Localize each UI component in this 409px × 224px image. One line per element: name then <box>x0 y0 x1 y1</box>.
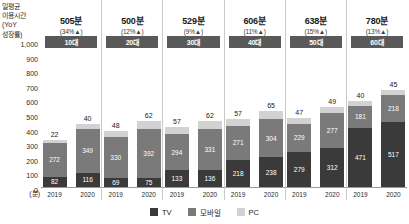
bar-top-label: 40 <box>348 92 372 99</box>
x-axis: 20192020 <box>163 187 223 200</box>
bar-group: 4018147145218517 <box>347 48 407 187</box>
stacked-bar[interactable]: 40181471 <box>348 101 372 188</box>
y-axis-tick: 700 <box>0 84 38 91</box>
legend-item-pc[interactable]: PC <box>237 208 259 217</box>
kpi-growth: (13%▲) <box>366 28 389 35</box>
stacked-bar[interactable]: 49277312 <box>320 107 344 187</box>
age-group: 500분(12%▲)20대4833069623927520192020 <box>102 0 163 200</box>
segment-tv: 75 <box>137 178 161 187</box>
group-kpi: 500분(12%▲) <box>102 0 162 36</box>
legend-item-mobile[interactable]: 모바일 <box>188 207 221 218</box>
x-axis-tick: 2019 <box>43 191 67 198</box>
stacked-bar[interactable]: 65304238 <box>259 111 283 187</box>
legend-swatch-icon <box>237 208 245 216</box>
axis-title-line-1: 일평균 <box>2 2 42 11</box>
stacked-bar[interactable]: 57294133 <box>165 127 189 188</box>
x-axis-tick: 2020 <box>381 191 405 198</box>
segment-mobile: 349 <box>76 129 100 173</box>
bar-top-label: 49 <box>320 98 344 105</box>
age-group: 606분(11%▲)40대572712186530423820192020 <box>225 0 286 200</box>
axis-title-line-3: (YoY <box>2 20 42 29</box>
age-group-label: 40대 <box>229 36 281 48</box>
segment-tv: 471 <box>348 128 372 187</box>
bar-top-label: 57 <box>226 110 250 117</box>
segment-tv: 218 <box>226 160 250 187</box>
stacked-bar[interactable]: 47229279 <box>287 118 311 187</box>
segment-pc <box>226 119 250 126</box>
stacked-bar[interactable]: 40349116 <box>76 124 100 187</box>
age-group-label: 20대 <box>106 36 158 48</box>
segment-mobile: 272 <box>43 143 67 177</box>
kpi-growth: (34%▲) <box>60 28 83 35</box>
kpi-growth: (12%▲) <box>121 28 144 35</box>
x-axis-tick: 2020 <box>259 191 283 198</box>
bar-top-label: 48 <box>104 122 128 129</box>
segment-tv: 238 <box>259 157 283 187</box>
x-axis-tick: 2020 <box>198 191 222 198</box>
stacked-bar[interactable]: 62331136 <box>198 121 222 187</box>
kpi-total: 606분 <box>243 14 265 27</box>
age-group-label: 10대 <box>45 36 97 48</box>
stacked-bar[interactable]: 57271218 <box>226 119 250 187</box>
segment-tv: 82 <box>43 177 67 187</box>
segment-pc <box>198 121 222 129</box>
segment-tv: 517 <box>381 122 405 187</box>
group-kpi: 529분(9%▲) <box>163 0 223 36</box>
x-axis: 20192020 <box>102 187 162 200</box>
x-axis: 20192020 <box>347 187 407 200</box>
segment-mobile: 294 <box>165 134 189 171</box>
bar-group: 48330696239275 <box>102 48 162 187</box>
kpi-growth: (11%▲) <box>244 28 266 35</box>
y-axis-tick: 100 <box>0 172 38 179</box>
y-axis-tick: 800 <box>0 70 38 77</box>
segment-pc <box>165 127 189 134</box>
y-axis-tick: 600 <box>0 99 38 106</box>
bar-group: 5729413362331136 <box>163 48 223 187</box>
segment-mobile: 229 <box>287 124 311 153</box>
chart-legend: TV모바일PC <box>0 203 409 221</box>
segment-pc <box>259 111 283 119</box>
y-axis-unit: (분) <box>2 188 40 198</box>
bar-group: 222728240349116 <box>41 48 101 187</box>
legend-swatch-icon <box>188 208 196 216</box>
segment-mobile: 181 <box>348 106 372 129</box>
segment-mobile: 392 <box>137 129 161 178</box>
y-axis-tick: 500 <box>0 114 38 121</box>
age-group-label: 50대 <box>290 36 342 48</box>
y-axis: 1,0009008007006005004003002001000 <box>0 44 38 190</box>
x-axis: 20192020 <box>286 187 346 200</box>
segment-tv: 116 <box>76 173 100 188</box>
y-axis-tick: 400 <box>0 128 38 135</box>
bar-top-label: 45 <box>381 81 405 88</box>
bar-top-label: 62 <box>198 112 222 119</box>
stacked-bar[interactable]: 45218517 <box>381 90 405 188</box>
group-kpi: 638분(15%▲) <box>286 0 346 36</box>
group-kpi: 780분(13%▲) <box>347 0 407 36</box>
segment-mobile: 331 <box>198 129 222 170</box>
age-group-label: 30대 <box>167 36 219 48</box>
x-axis-tick: 2020 <box>76 191 100 198</box>
kpi-total: 505분 <box>60 14 82 27</box>
legend-item-tv[interactable]: TV <box>150 208 172 217</box>
kpi-growth: (9%▲) <box>184 28 203 35</box>
x-axis-tick: 2019 <box>226 191 250 198</box>
age-group: 529분(9%▲)30대572941336233113620192020 <box>163 0 224 200</box>
bar-top-label: 47 <box>287 109 311 116</box>
y-axis-tick: 200 <box>0 157 38 164</box>
stacked-bar[interactable]: 6239275 <box>137 121 161 187</box>
segment-tv: 312 <box>320 148 344 187</box>
segment-mobile: 271 <box>226 126 250 160</box>
bar-top-label: 22 <box>43 131 67 138</box>
segment-mobile: 218 <box>381 95 405 122</box>
segment-mobile: 330 <box>104 137 128 178</box>
chart-root: 일평균 이용시간 (YoY 성장률) 1,0009008007006005004… <box>0 0 409 224</box>
legend-label: TV <box>162 208 172 217</box>
segment-tv: 69 <box>104 178 128 187</box>
stacked-bar[interactable]: 4833069 <box>104 131 128 187</box>
group-kpi: 505분(34%▲) <box>41 0 101 36</box>
x-axis-tick: 2019 <box>104 191 128 198</box>
stacked-bar[interactable]: 2227282 <box>43 140 67 187</box>
kpi-total: 500분 <box>121 14 143 27</box>
bar-top-label: 62 <box>137 112 161 119</box>
kpi-total: 638분 <box>305 14 327 27</box>
